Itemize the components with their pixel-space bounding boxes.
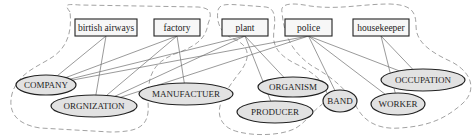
concept-manufactuer: MANUFACTUER: [139, 83, 233, 105]
concept-producer: PRODUCER: [237, 101, 313, 123]
concept-label: ORGNIZATION: [64, 101, 125, 111]
entity-plant: plant: [222, 19, 268, 36]
concept-label: ORGANISM: [269, 82, 317, 92]
concept-label: OCCUPATION: [395, 75, 452, 85]
entity-label: housekeeper: [357, 23, 405, 33]
edge-plant-organism: [245, 36, 284, 77]
concept-label: PRODUCER: [251, 107, 299, 117]
entity-housekeeper: housekeeper: [353, 19, 409, 36]
entity-label: factory: [164, 23, 191, 33]
edges: [57, 36, 412, 101]
concept-company: COMPANY: [16, 75, 76, 95]
edge-police-company: [72, 36, 308, 80]
concept-organism: ORGANISM: [258, 77, 328, 97]
entity-police: police: [285, 19, 332, 36]
diagram-canvas: birtish airwaysfactoryplantpolicehouseke…: [0, 0, 475, 139]
edge-housekeeper-occupation: [381, 36, 413, 69]
entity-factory: factory: [154, 19, 200, 36]
concept-label: COMPANY: [24, 80, 69, 90]
entity-label: plant: [236, 23, 255, 33]
semantic-concept-diagram: birtish airwaysfactoryplantpolicehouseke…: [0, 0, 475, 139]
edge-birtish_airways-company: [57, 36, 106, 76]
entity-birtish_airways: birtish airways: [75, 19, 137, 36]
entity-label: birtish airways: [78, 23, 135, 33]
concept-label: MANUFACTUER: [152, 89, 220, 99]
edge-plant-company: [70, 36, 245, 79]
concept-worker: WORKER: [371, 93, 425, 115]
concept-ellipses: COMPANYORGNIZATIONMANUFACTUERPRODUCERORG…: [16, 69, 465, 123]
concept-label: BAND: [327, 96, 353, 106]
entity-boxes: birtish airwaysfactoryplantpolicehouseke…: [75, 19, 409, 36]
concept-band: BAND: [323, 90, 357, 112]
concept-occupation: OCCUPATION: [381, 69, 465, 91]
concept-label: WORKER: [379, 99, 418, 109]
entity-label: police: [297, 23, 320, 33]
concept-orgnization: ORGNIZATION: [51, 95, 137, 117]
